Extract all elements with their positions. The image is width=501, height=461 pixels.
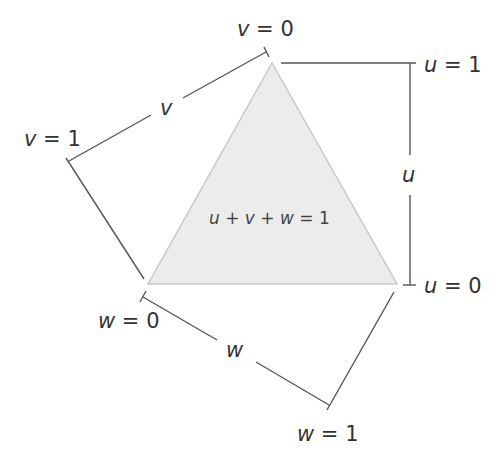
barycentric-diagram: v = 0 v = 1 v u = 1 u u = 0 w = 0 w w = … <box>0 0 501 461</box>
u-axis-label: u <box>402 163 415 187</box>
w-one-label: w = 1 <box>297 422 359 446</box>
u-one-label: u = 1 <box>424 53 482 77</box>
w-bracket <box>140 291 394 410</box>
u-zero-label: u = 0 <box>424 274 482 298</box>
v-one-label: v = 1 <box>24 127 81 151</box>
equation-label: u + v + w = 1 <box>209 208 330 228</box>
w-zero-label: w = 0 <box>98 309 160 333</box>
v-axis-label: v <box>160 96 173 120</box>
w-axis-label: w <box>226 338 244 362</box>
v-zero-label: v = 0 <box>237 17 294 41</box>
